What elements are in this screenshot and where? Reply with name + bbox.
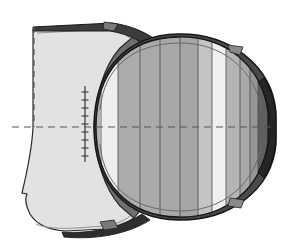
barrel-band xyxy=(140,30,160,222)
barrel-band xyxy=(198,30,212,222)
barrel-band xyxy=(180,30,198,222)
tab-bottom-right xyxy=(228,198,244,208)
barrel-band xyxy=(160,30,180,222)
figure-canvas xyxy=(0,0,284,250)
technical-drawing xyxy=(0,0,284,250)
barrel-band xyxy=(212,30,226,222)
